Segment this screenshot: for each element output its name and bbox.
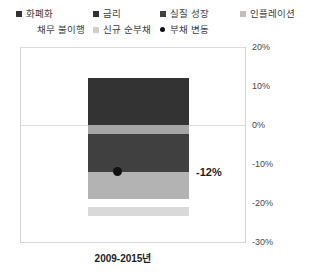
legend-label-real-growth: 실질 성장 [170,8,209,19]
chart-container: 화폐화 금리 실질 성장 인플레이션 채무 불이행 신규 순부채 부채 변동 [0,0,309,275]
y-tick-neg20: -20% [252,198,273,208]
legend-label-new-net-debt: 신규 순부채 [103,24,151,35]
plot-area: -12% [20,47,246,243]
legend-item-inflation[interactable]: 인플레이션 [240,8,295,19]
axis-bottom-line [21,242,245,243]
legend-item-default[interactable]: 채무 불이행 [27,24,85,35]
legend-label-monetization: 화폐화 [26,8,53,19]
legend-label-debt-change: 부채 변동 [170,24,209,35]
y-tick-neg10: -10% [252,159,273,169]
bar-segment-monetization[interactable] [88,78,189,125]
y-tick-20: 20% [252,42,270,52]
bar-segment-real-growth[interactable] [88,134,189,172]
bar-segment-default[interactable] [88,199,189,207]
chart-legend: 화폐화 금리 실질 성장 인플레이션 채무 불이행 신규 순부채 부채 변동 [0,6,309,44]
bar-segment-inflation[interactable] [88,172,189,199]
debt-change-value-label: -12% [196,166,222,178]
y-tick-0: 0% [252,120,265,130]
legend-swatch-inflation-icon [240,11,246,17]
legend-label-inflation: 인플레이션 [250,8,295,19]
bar-segment-new-net-debt[interactable] [88,207,189,216]
x-axis-title: 2009-2015년 [0,250,246,265]
y-tick-10: 10% [252,81,270,91]
legend-swatch-new-net-debt-icon [93,27,99,33]
legend-swatch-debt-change-icon [160,27,165,32]
legend-label-interest-rate: 금리 [103,8,121,19]
y-tick-neg30: -30% [252,237,273,247]
legend-item-debt-change[interactable]: 부채 변동 [160,24,209,35]
legend-swatch-real-growth-icon [160,11,166,17]
legend-swatch-interest-rate-icon [93,11,99,17]
legend-swatch-default-icon [27,27,33,33]
legend-item-new-net-debt[interactable]: 신규 순부채 [93,24,151,35]
legend-label-default: 채무 불이행 [37,24,85,35]
legend-item-monetization[interactable]: 화폐화 [16,8,53,19]
legend-item-interest-rate[interactable]: 금리 [93,8,121,19]
debt-change-dot-marker[interactable] [113,167,122,176]
legend-swatch-monetization-icon [16,11,22,17]
gridline-20 [21,47,245,48]
legend-item-real-growth[interactable]: 실질 성장 [160,8,209,19]
bar-segment-interest-rate[interactable] [88,125,189,134]
